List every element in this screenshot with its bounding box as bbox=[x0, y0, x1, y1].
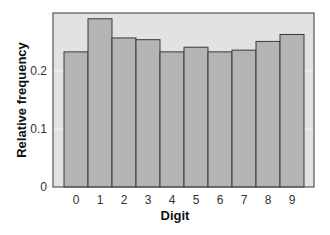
bar-digit-1 bbox=[88, 19, 112, 187]
x-tick-label: 7 bbox=[241, 193, 248, 207]
bar-digit-7 bbox=[232, 50, 256, 187]
x-tick-label: 3 bbox=[145, 193, 152, 207]
bar-digit-5 bbox=[184, 47, 208, 187]
y-axis-title: Relative frequency bbox=[14, 41, 29, 157]
bar-digit-9 bbox=[280, 34, 304, 187]
x-tick-label: 2 bbox=[121, 193, 128, 207]
bar-digit-4 bbox=[160, 52, 184, 187]
bar-digit-2 bbox=[112, 38, 136, 187]
x-tick-label: 8 bbox=[265, 193, 272, 207]
x-tick-label: 6 bbox=[217, 193, 224, 207]
x-tick-label: 1 bbox=[97, 193, 104, 207]
x-tick-label: 5 bbox=[193, 193, 200, 207]
bar-digit-3 bbox=[136, 40, 160, 187]
y-tick-label: 0 bbox=[40, 180, 47, 194]
x-axis-ticks: 0123456789 bbox=[73, 193, 296, 207]
bar-digit-8 bbox=[256, 41, 280, 187]
x-tick-label: 0 bbox=[73, 193, 80, 207]
y-tick-label: 0.1 bbox=[30, 122, 47, 136]
bar-chart: 00.10.2 0123456789 Digit Relative freque… bbox=[0, 0, 330, 235]
y-axis-ticks: 00.10.2 bbox=[30, 64, 47, 194]
y-tick-label: 0.2 bbox=[30, 64, 47, 78]
bar-digit-0 bbox=[64, 52, 88, 187]
x-axis-title: Digit bbox=[161, 208, 191, 223]
x-tick-label: 4 bbox=[169, 193, 176, 207]
x-tick-label: 9 bbox=[289, 193, 296, 207]
bar-digit-6 bbox=[208, 52, 232, 187]
